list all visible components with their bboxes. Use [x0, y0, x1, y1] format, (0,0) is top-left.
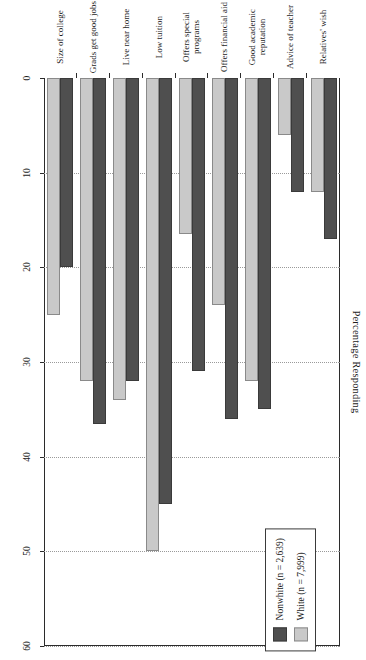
bar — [113, 78, 126, 400]
category-label-slot: Offers financial aid — [208, 0, 241, 74]
bar — [126, 78, 139, 381]
tick-label: 40 — [22, 452, 32, 462]
category-label-slot: Size of college — [44, 0, 77, 74]
bar — [258, 78, 271, 409]
bar — [146, 78, 159, 551]
bar — [80, 78, 93, 381]
legend-label: White (n = 7,999) — [296, 552, 306, 620]
bar-group — [176, 78, 209, 646]
category-label-slot: Good academic reputation — [241, 0, 274, 74]
bar-group — [143, 78, 176, 646]
category-tick — [175, 73, 176, 78]
bar — [245, 78, 258, 381]
category-label: Live near home — [121, 9, 131, 65]
category-tick — [306, 73, 307, 78]
category-label-slot: Advice of teacher — [274, 0, 307, 74]
category-label: Offers special programs — [182, 0, 202, 74]
legend-swatch-dark — [273, 627, 287, 641]
bar — [278, 78, 291, 135]
bar — [179, 78, 192, 234]
category-tick — [273, 73, 274, 78]
bar — [192, 78, 205, 371]
bar — [159, 78, 172, 504]
bar — [47, 78, 60, 315]
legend-label: Nonwhite (n = 2,639) — [275, 538, 285, 620]
bar-group — [44, 78, 77, 646]
category-tick — [109, 73, 110, 78]
tick-mark — [40, 646, 44, 647]
chart-legend: Nonwhite (n = 2,639)White (n = 7,999) — [265, 528, 316, 651]
category-label-slot: Grads get good jobs — [77, 0, 110, 74]
bar — [225, 78, 238, 419]
tick-label: 20 — [22, 263, 32, 273]
category-label: Grads get good jobs — [88, 1, 98, 73]
category-label: Offers financial aid — [220, 2, 230, 72]
category-label-slot: Relatives' wish — [307, 0, 340, 74]
bar — [93, 78, 106, 424]
bar-group — [77, 78, 110, 646]
bar — [291, 78, 304, 192]
legend-item: White (n = 7,999) — [294, 538, 308, 641]
category-label: Size of college — [55, 10, 65, 63]
category-label-slot: Live near home — [110, 0, 143, 74]
tick-label: 10 — [22, 168, 32, 178]
bar — [60, 78, 73, 267]
category-tick — [76, 73, 77, 78]
tick-label: 60 — [22, 641, 32, 651]
figure-canvas: Percentage Responding 0102030405060 Rela… — [0, 0, 366, 660]
legend-swatch-light — [294, 627, 308, 641]
category-label: Relatives' wish — [319, 10, 329, 64]
bar — [311, 78, 324, 192]
value-axis-title: Percentage Responding — [351, 78, 362, 646]
bar — [212, 78, 225, 305]
category-tick — [207, 73, 208, 78]
bar-group — [110, 78, 143, 646]
category-label: Low tuition — [154, 16, 164, 58]
tick-label: 0 — [22, 76, 32, 81]
category-label: Advice of teacher — [286, 5, 296, 69]
legend-item: Nonwhite (n = 2,639) — [273, 538, 287, 641]
tick-label: 50 — [22, 547, 32, 557]
category-tick — [240, 73, 241, 78]
tick-label: 30 — [22, 357, 32, 367]
category-tick — [142, 73, 143, 78]
category-label-slot: Offers special programs — [176, 0, 209, 74]
category-label-slot: Low tuition — [143, 0, 176, 74]
category-label: Good academic reputation — [248, 0, 268, 74]
bar — [324, 78, 337, 239]
bar-group — [208, 78, 241, 646]
